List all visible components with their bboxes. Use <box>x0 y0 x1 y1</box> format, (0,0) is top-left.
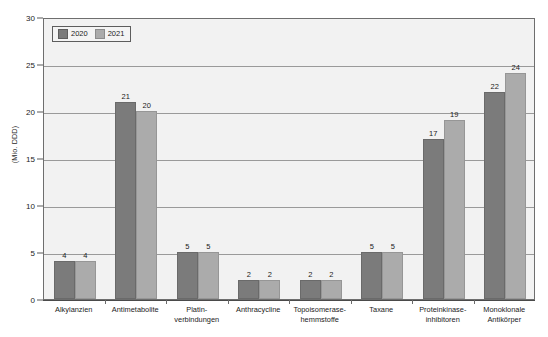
bar-value-label: 24 <box>512 63 520 72</box>
bar-group: 22 <box>238 19 280 299</box>
chart-legend: 2020 2021 <box>52 26 131 42</box>
bar-2021-2[interactable]: 5 <box>198 252 219 299</box>
bar-2020-6[interactable]: 17 <box>423 139 444 299</box>
bar-2021-7[interactable]: 24 <box>505 73 526 299</box>
x-axis-label: Monoklonale Antikörper <box>462 305 546 324</box>
bar-value-label: 2 <box>308 270 312 279</box>
y-tick-label: 10 <box>26 202 35 211</box>
bar-2021-5[interactable]: 5 <box>382 252 403 299</box>
x-tick-mark <box>474 300 475 304</box>
bar-value-label: 4 <box>83 251 87 260</box>
legend-entry-2020[interactable]: 2020 <box>58 29 88 39</box>
legend-swatch-2020-icon <box>58 29 68 39</box>
bar-value-label: 21 <box>122 92 130 101</box>
bar-value-label: 5 <box>391 242 395 251</box>
x-axis-line <box>43 300 535 301</box>
bar-group: 2224 <box>484 19 526 299</box>
x-tick-mark <box>351 300 352 304</box>
bar-2020-2[interactable]: 5 <box>177 252 198 299</box>
bar-2020-7[interactable]: 22 <box>484 92 505 299</box>
bar-2021-1[interactable]: 20 <box>136 111 157 299</box>
x-tick-mark <box>412 300 413 304</box>
legend-label-2020: 2020 <box>71 30 88 38</box>
y-axis-ticks: 051015202530 <box>0 0 43 337</box>
bar-value-label: 5 <box>185 242 189 251</box>
y-tick-label: 0 <box>31 296 35 305</box>
bar-value-label: 5 <box>370 242 374 251</box>
bar-group: 2120 <box>115 19 157 299</box>
x-tick-mark <box>166 300 167 304</box>
y-tick-label: 20 <box>26 108 35 117</box>
bar-value-label: 2 <box>329 270 333 279</box>
bar-value-label: 2 <box>247 270 251 279</box>
bar-2020-0[interactable]: 4 <box>54 261 75 299</box>
bar-2021-0[interactable]: 4 <box>75 261 96 299</box>
legend-label-2021: 2021 <box>108 30 125 38</box>
bar-chart: (Mio. DDD) 051015202530 4421205522225517… <box>0 0 548 337</box>
bar-2021-6[interactable]: 19 <box>444 120 465 299</box>
bar-value-label: 19 <box>450 110 458 119</box>
x-axis-labels: AlkylanzienAntimetabolitePlatin- verbind… <box>43 305 535 337</box>
bar-value-label: 2 <box>268 270 272 279</box>
bar-2020-1[interactable]: 21 <box>115 102 136 299</box>
legend-swatch-2021-icon <box>95 29 105 39</box>
bar-group: 55 <box>177 19 219 299</box>
y-tick-label: 30 <box>26 14 35 23</box>
y-tick-label: 25 <box>26 61 35 70</box>
bar-group: 44 <box>54 19 96 299</box>
bar-value-label: 4 <box>62 251 66 260</box>
x-tick-mark <box>289 300 290 304</box>
bar-value-label: 5 <box>206 242 210 251</box>
bar-value-label: 20 <box>143 101 151 110</box>
bar-2020-4[interactable]: 2 <box>300 280 321 299</box>
plot-area: 4421205522225517192224 2020 2021 <box>43 18 535 300</box>
legend-entry-2021[interactable]: 2021 <box>95 29 125 39</box>
bar-groups: 4421205522225517192224 <box>44 19 534 299</box>
x-tick-mark <box>105 300 106 304</box>
y-tick-label: 15 <box>26 155 35 164</box>
bar-group: 1719 <box>423 19 465 299</box>
bar-2020-3[interactable]: 2 <box>238 280 259 299</box>
x-tick-mark <box>228 300 229 304</box>
bar-2021-4[interactable]: 2 <box>321 280 342 299</box>
bar-2021-3[interactable]: 2 <box>259 280 280 299</box>
bar-group: 22 <box>300 19 342 299</box>
bar-group: 55 <box>361 19 403 299</box>
y-tick-label: 5 <box>31 249 35 258</box>
bar-value-label: 22 <box>491 82 499 91</box>
bar-value-label: 17 <box>429 129 437 138</box>
bar-2020-5[interactable]: 5 <box>361 252 382 299</box>
